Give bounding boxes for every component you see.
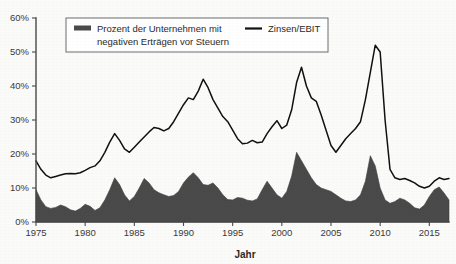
x-tick-label: 2010 — [370, 227, 391, 238]
x-tick-label: 1985 — [124, 227, 145, 238]
x-tick-label: 1995 — [222, 227, 243, 238]
x-tick-label: 1980 — [75, 227, 96, 238]
y-tick-label: 50% — [10, 46, 30, 57]
x-axis-title: Jahr — [234, 249, 255, 260]
x-tick-label: 2005 — [320, 227, 341, 238]
series-layer — [36, 45, 449, 222]
x-tick-label: 1975 — [25, 227, 46, 238]
x-tick-label: 2000 — [271, 227, 292, 238]
chart-legend: Prozent der Unternehmen mit negativen Er… — [66, 18, 328, 52]
x-tick-label: 2015 — [419, 227, 440, 238]
chart-canvas: 0%10%20%30%40%50%60% 1975198019851990199… — [0, 0, 456, 264]
legend-label-area-line1: Prozent der Unternehmen mit — [97, 23, 222, 34]
x-tick-label: 1990 — [173, 227, 194, 238]
chart-figure: 0%10%20%30%40%50%60% 1975198019851990199… — [0, 0, 456, 264]
y-axis-ticks: 0%10%20%30%40%50%60% — [10, 12, 36, 227]
y-tick-label: 20% — [10, 148, 30, 159]
legend-swatch-area — [74, 26, 91, 31]
y-tick-label: 40% — [10, 80, 30, 91]
y-tick-label: 30% — [10, 114, 30, 125]
x-axis-ticks: 197519801985199019952000200520102015 — [25, 222, 439, 238]
legend-label-line: Zinsen/EBIT — [268, 23, 320, 34]
y-tick-label: 10% — [10, 182, 30, 193]
y-tick-label: 60% — [10, 12, 30, 23]
y-tick-label: 0% — [15, 216, 29, 227]
line-series-zinsen-ebit — [36, 45, 449, 188]
legend-label-area-line2: negativen Erträgen vor Steuern — [97, 36, 229, 47]
